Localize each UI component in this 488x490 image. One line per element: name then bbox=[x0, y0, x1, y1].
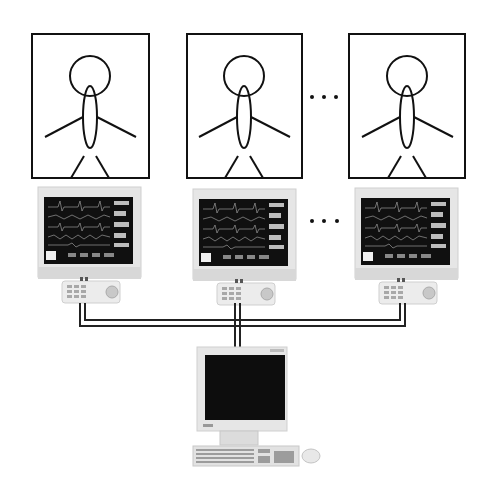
central-workstation bbox=[193, 347, 320, 466]
patient-bed-2 bbox=[187, 34, 302, 178]
monitoring-network-diagram bbox=[0, 0, 488, 490]
patient-bed-1 bbox=[32, 34, 149, 178]
keyboard bbox=[193, 446, 299, 466]
bedside-monitor-1 bbox=[38, 187, 141, 303]
ellipsis-patients bbox=[310, 95, 338, 99]
bedside-monitor-2 bbox=[193, 189, 296, 305]
ellipsis-monitors bbox=[310, 219, 339, 223]
network-cables bbox=[80, 303, 405, 347]
patient-bed-3 bbox=[349, 34, 465, 178]
mouse bbox=[302, 449, 320, 463]
bedside-monitor-3 bbox=[355, 188, 458, 304]
